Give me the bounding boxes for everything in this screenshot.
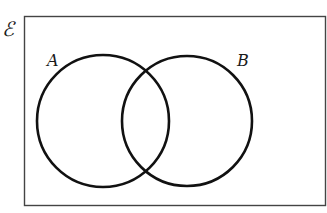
set-b-circle	[122, 56, 252, 186]
set-a-circle	[37, 55, 169, 187]
universal-set-label: ℰ	[2, 17, 16, 41]
venn-diagram: ℰ A B	[0, 0, 327, 213]
set-b-label: B	[236, 51, 249, 70]
set-a-label: A	[45, 51, 59, 70]
